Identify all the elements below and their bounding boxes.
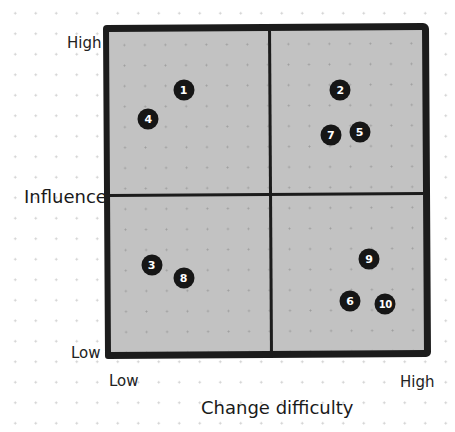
y-axis-high-label: High <box>67 34 101 52</box>
x-axis-low-label: Low <box>109 372 139 390</box>
horizontal-divider <box>110 192 423 197</box>
point-marker-10[interactable]: 10 <box>375 294 396 315</box>
point-marker-6[interactable]: 6 <box>340 290 361 311</box>
point-marker-1[interactable]: 1 <box>173 79 194 100</box>
point-marker-3[interactable]: 3 <box>141 255 162 276</box>
point-marker-4[interactable]: 4 <box>138 108 159 129</box>
point-marker-5[interactable]: 5 <box>349 121 370 142</box>
vertical-divider <box>268 31 273 351</box>
point-marker-8[interactable]: 8 <box>173 268 194 289</box>
point-marker-2[interactable]: 2 <box>330 79 351 100</box>
point-marker-9[interactable]: 9 <box>359 248 380 269</box>
point-marker-7[interactable]: 7 <box>320 125 341 146</box>
x-axis-high-label: High <box>400 373 434 391</box>
x-axis-title: Change difficulty <box>201 397 353 418</box>
y-axis-title: Influence <box>24 186 107 207</box>
y-axis-low-label: Low <box>71 344 101 362</box>
